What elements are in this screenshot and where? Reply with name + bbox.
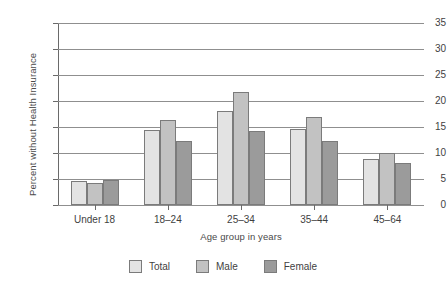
x-tick-mark: [168, 205, 169, 210]
bar: [71, 181, 87, 205]
legend-item-total[interactable]: Total: [129, 260, 170, 273]
x-tick-mark: [241, 205, 242, 210]
bar: [363, 159, 379, 205]
chart-legend: TotalMaleFemale: [0, 260, 446, 273]
legend-label: Male: [216, 261, 238, 273]
x-axis-title: Age group in years: [58, 231, 424, 242]
bar-group: [363, 23, 411, 205]
bar-group: [71, 23, 119, 205]
bar: [217, 111, 233, 205]
bar: [306, 117, 322, 205]
bar: [249, 131, 265, 205]
legend-item-male[interactable]: Male: [196, 260, 238, 273]
x-tick-mark: [314, 205, 315, 210]
bar: [395, 163, 411, 205]
bar: [144, 130, 160, 205]
bar: [322, 141, 338, 205]
x-tick-mark: [387, 205, 388, 210]
legend-label: Total: [149, 261, 170, 273]
legend-swatch-icon: [196, 260, 209, 273]
bar: [160, 120, 176, 205]
bar-group: [144, 23, 192, 205]
bar: [87, 183, 103, 205]
legend-label: Female: [284, 261, 317, 273]
bar-group: [290, 23, 338, 205]
x-tick-label: 45–64: [327, 214, 447, 226]
plot-area: [58, 23, 424, 205]
bar: [379, 153, 395, 205]
bar: [290, 129, 306, 205]
bar: [233, 92, 249, 205]
bar-group: [217, 23, 265, 205]
bar: [103, 180, 119, 205]
legend-item-female[interactable]: Female: [264, 260, 317, 273]
x-tick-mark: [95, 205, 96, 210]
y-axis-title: Percent without Health Insurance: [26, 0, 40, 196]
legend-swatch-icon: [129, 260, 142, 273]
legend-swatch-icon: [264, 260, 277, 273]
bar: [176, 141, 192, 205]
